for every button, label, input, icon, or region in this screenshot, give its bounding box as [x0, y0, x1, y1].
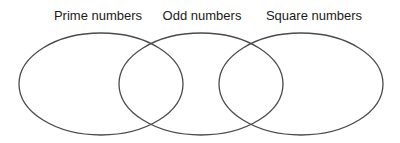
- prime-numbers-ellipse: [19, 33, 183, 135]
- square-numbers-label: Square numbers: [266, 8, 362, 24]
- odd-numbers-label: Odd numbers: [163, 8, 242, 24]
- prime-numbers-label: Prime numbers: [54, 8, 142, 24]
- odd-numbers-ellipse: [119, 33, 283, 135]
- venn-diagram: Prime numbers Odd numbers Square numbers: [0, 0, 400, 143]
- square-numbers-ellipse: [219, 33, 383, 135]
